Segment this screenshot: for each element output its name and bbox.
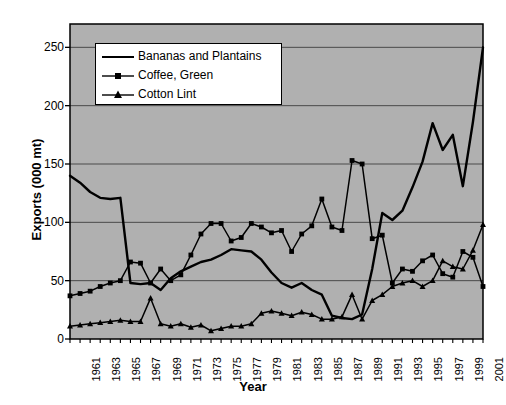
- legend-label-coffee: Coffee, Green: [138, 69, 213, 82]
- legend-item-cotton: Cotton Lint: [101, 85, 276, 104]
- legend: Bananas and Plantains Coffee, Green Cott…: [95, 43, 282, 105]
- legend-swatch-line-triangle: [101, 88, 135, 102]
- legend-item-coffee: Coffee, Green: [101, 66, 276, 85]
- legend-item-bananas: Bananas and Plantains: [101, 47, 276, 66]
- legend-swatch-line-square: [101, 69, 135, 83]
- legend-label-cotton: Cotton Lint: [138, 88, 196, 101]
- chart-figure: Exports (000 mt) Year 050100150200250 19…: [0, 0, 506, 405]
- legend-label-bananas: Bananas and Plantains: [138, 50, 261, 63]
- legend-swatch-line-plain: [101, 50, 135, 64]
